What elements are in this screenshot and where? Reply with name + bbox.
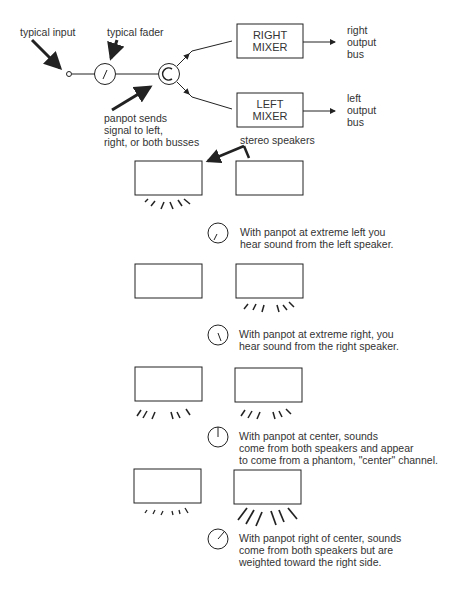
caption-line: hear sound from the right speaker. (239, 340, 399, 352)
diagram-graphics (0, 0, 471, 594)
bus-text: output (347, 36, 376, 48)
caption-extreme-right: With panpot at extreme right, you hear s… (239, 328, 399, 352)
right-mixer-text: MIXER (237, 41, 303, 53)
bus-text: bus (347, 116, 376, 128)
caption-line: weighted toward the right side. (239, 556, 401, 568)
left-mixer-text: LEFT (237, 98, 303, 110)
panpot-right-icon (208, 325, 228, 345)
panpot-diagram: typical input typical fader panpot sends… (0, 0, 471, 594)
caption-right-of-center: With panpot right of center, sounds come… (239, 532, 401, 568)
panpot-left-icon (208, 223, 228, 243)
stereo-speakers-label: stereo speakers (240, 134, 315, 146)
right-mixer-text: RIGHT (237, 29, 303, 41)
left-mixer-label: LEFT MIXER (237, 98, 303, 122)
typical-fader-label: typical fader (107, 26, 164, 38)
caption-line: With panpot right of center, sounds (239, 532, 401, 544)
panpot-label: panpot sends signal to left, right, or b… (104, 112, 199, 148)
right-mixer-label: RIGHT MIXER (237, 29, 303, 53)
panpot-arrow-icon (112, 87, 150, 110)
caption-line: to come from a phantom, "center" channel… (239, 454, 438, 466)
caption-center: With panpot at center, sounds come from … (239, 430, 438, 466)
bus-text: right (347, 24, 376, 36)
typical-input-label: typical input (20, 26, 75, 38)
right-speaker (236, 161, 303, 195)
caption-extreme-left: With panpot at extreme left you hear sou… (240, 226, 394, 250)
left-speaker (135, 161, 202, 195)
caption-line: With panpot at center, sounds (239, 430, 438, 442)
caption-line: come from both speakers and appear (239, 442, 438, 454)
caption-line: come from both speakers but are (239, 544, 401, 556)
right-output-bus-label: right output bus (347, 24, 376, 60)
fader-arrow-icon (111, 40, 117, 58)
input-arrow-icon (32, 40, 60, 68)
bus-text: bus (347, 48, 376, 60)
caption-line: hear sound from the left speaker. (240, 238, 394, 250)
caption-line: With panpot at extreme right, you (239, 328, 399, 340)
bus-text: output (347, 104, 376, 116)
input-jack-icon (67, 72, 72, 77)
left-mixer-text: MIXER (237, 110, 303, 122)
left-output-bus-label: left output bus (347, 92, 376, 128)
panpot-label-line: panpot sends (104, 112, 199, 124)
panpot-label-line: signal to left, (104, 124, 199, 136)
speakers-arrow-icon (208, 146, 244, 161)
panpot-label-line: right, or both busses (104, 136, 199, 148)
bus-text: left (347, 92, 376, 104)
caption-line: With panpot at extreme left you (240, 226, 394, 238)
panpot-knob-icon (159, 64, 180, 85)
